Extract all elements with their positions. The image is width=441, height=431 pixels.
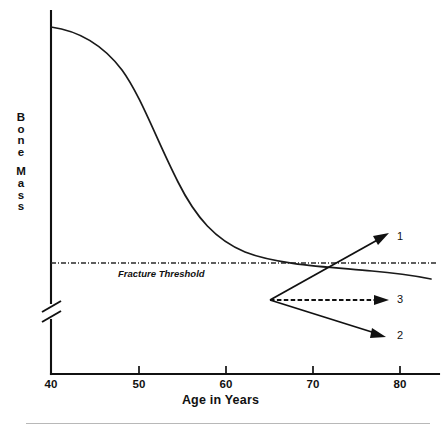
- annotation-label-2: 2: [397, 329, 403, 341]
- footer-divider: [26, 423, 430, 424]
- x-tick-label-60: 60: [213, 378, 239, 390]
- x-axis-title: Age in Years: [0, 393, 441, 407]
- y-axis-title-letter-a: a: [18, 178, 24, 190]
- x-tick-label-40: 40: [38, 378, 64, 390]
- y-axis-title-letter-e: e: [18, 147, 24, 159]
- bone-mass-age-chart: B o n e M a s s 40 50 60 70 80 Age in Ye…: [0, 0, 441, 431]
- annotation-arrow-1-line: [270, 238, 381, 300]
- annotation-arrow-3-head: [374, 295, 389, 305]
- y-axis-title-letter-b: B: [17, 112, 25, 124]
- annotation-arrow-1-head: [373, 233, 389, 245]
- x-tick-label-50: 50: [126, 378, 152, 390]
- chart-canvas: [0, 0, 441, 431]
- y-axis-title-letter-s2: s: [18, 201, 24, 213]
- x-tick-label-70: 70: [300, 378, 326, 390]
- annotation-label-3: 3: [397, 293, 403, 305]
- y-axis-title: B o n e M a s s: [10, 112, 32, 213]
- annotation-arrow-2-line: [270, 300, 375, 333]
- annotation-arrow-2-head: [370, 328, 386, 338]
- x-tick-label-80: 80: [387, 378, 413, 390]
- annotation-label-1: 1: [397, 230, 403, 242]
- fracture-threshold-label: Fracture Threshold: [118, 268, 205, 279]
